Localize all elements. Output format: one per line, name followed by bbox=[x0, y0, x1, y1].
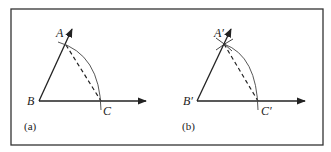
compass-arc bbox=[58, 42, 101, 110]
panel-caption-a: (a) bbox=[24, 120, 37, 133]
vertex-label-b: B bbox=[27, 94, 35, 108]
vertex-label-c-prime: C′ bbox=[261, 104, 272, 118]
vertex-label-a: A bbox=[55, 26, 64, 40]
panel-a: A B C (a) bbox=[24, 26, 146, 133]
vertex-label-c: C bbox=[103, 104, 112, 118]
triangle-construction-figure: A B C (a) A′ B′ C′ (b) bbox=[0, 0, 331, 152]
vertex-label-a-prime: A′ bbox=[213, 26, 224, 40]
panel-b: A′ B′ C′ (b) bbox=[182, 26, 305, 133]
compass-arc-prime bbox=[224, 44, 258, 110]
dashed-segment-ac-prime bbox=[224, 44, 258, 101]
dashed-segment-ac bbox=[66, 45, 101, 101]
vertex-label-b-prime: B′ bbox=[183, 94, 193, 108]
arc-cross-mark-2 bbox=[216, 39, 233, 50]
panel-caption-b: (b) bbox=[182, 120, 195, 133]
